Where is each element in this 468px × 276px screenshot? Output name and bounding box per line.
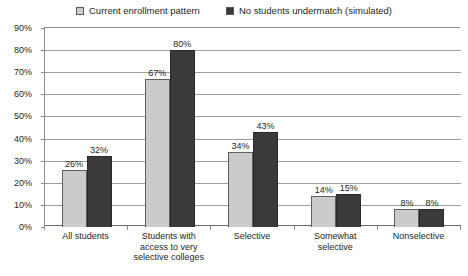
bar[interactable]: 80% bbox=[170, 50, 195, 227]
bar-value-label: 43% bbox=[256, 122, 274, 131]
bar-group: 67%80% bbox=[128, 28, 211, 227]
y-axis-tick-label: 40% bbox=[0, 135, 32, 144]
bar-value-label: 80% bbox=[173, 40, 191, 49]
bar-group: 26%32% bbox=[45, 28, 128, 227]
x-axis-category-label: Students withaccess to veryselective col… bbox=[127, 231, 210, 263]
x-axis-tick-mark bbox=[377, 226, 378, 230]
bar-value-label: 15% bbox=[340, 184, 358, 193]
y-axis-tick-label: 0% bbox=[0, 223, 32, 232]
bar-value-label: 14% bbox=[315, 186, 333, 195]
x-axis-labels: All studentsStudents withaccess to verys… bbox=[44, 231, 460, 263]
x-axis-tick-mark bbox=[44, 226, 45, 230]
bar-value-label: 32% bbox=[90, 146, 108, 155]
legend-swatch-light-icon bbox=[76, 7, 84, 15]
legend-item-current-enrollment: Current enrollment pattern bbox=[76, 6, 200, 16]
bar-chart: 90%80%70%60%50%40%30%20%10%0% 26%32%67%8… bbox=[0, 22, 468, 276]
bar-group: 34%43% bbox=[211, 28, 294, 227]
bar-value-label: 67% bbox=[148, 69, 166, 78]
y-axis-tick-label: 10% bbox=[0, 201, 32, 210]
bar-group: 8%8% bbox=[378, 28, 461, 227]
y-axis-tick-label: 50% bbox=[0, 112, 32, 121]
x-axis-ticks bbox=[44, 226, 460, 230]
x-axis-tick-mark bbox=[127, 226, 128, 230]
bar-value-label: 26% bbox=[65, 160, 83, 169]
legend-label-no-undermatch: No students undermatch (simulated) bbox=[239, 6, 392, 16]
bar-value-label: 8% bbox=[425, 199, 438, 208]
legend-label-current-enrollment: Current enrollment pattern bbox=[89, 6, 200, 16]
bar[interactable]: 15% bbox=[336, 194, 361, 227]
plot-inner: 90%80%70%60%50%40%30%20%10%0% 26%32%67%8… bbox=[45, 28, 460, 226]
legend-swatch-dark-icon bbox=[226, 7, 234, 15]
legend-item-no-undermatch: No students undermatch (simulated) bbox=[226, 6, 392, 16]
x-axis-tick-mark bbox=[460, 226, 461, 230]
y-axis-tick-label: 20% bbox=[0, 179, 32, 188]
bar[interactable]: 26% bbox=[62, 170, 87, 227]
bar-group: 14%15% bbox=[295, 28, 378, 227]
y-axis-tick-label: 70% bbox=[0, 68, 32, 77]
x-axis-category-label: All students bbox=[44, 231, 127, 263]
chart-legend: Current enrollment pattern No students u… bbox=[0, 0, 468, 22]
x-axis-category-label: Somewhatselective bbox=[294, 231, 377, 263]
y-axis-tick-label: 60% bbox=[0, 90, 32, 99]
x-axis-category-label: Nonselective bbox=[377, 231, 460, 263]
x-axis-tick-mark bbox=[294, 226, 295, 230]
bar-groups: 26%32%67%80%34%43%14%15%8%8% bbox=[45, 28, 461, 227]
bar[interactable]: 67% bbox=[145, 79, 170, 227]
y-axis-tick-label: 90% bbox=[0, 24, 32, 33]
bar[interactable]: 43% bbox=[253, 132, 278, 227]
bar-value-label: 8% bbox=[400, 199, 413, 208]
x-axis-category-label: Selective bbox=[210, 231, 293, 263]
bar[interactable]: 8% bbox=[419, 209, 444, 227]
bar[interactable]: 32% bbox=[87, 156, 112, 227]
y-axis-tick-label: 30% bbox=[0, 157, 32, 166]
bar[interactable]: 8% bbox=[394, 209, 419, 227]
x-axis-tick-mark bbox=[210, 226, 211, 230]
y-axis-tick-label: 80% bbox=[0, 46, 32, 55]
plot-area: 90%80%70%60%50%40%30%20%10%0% 26%32%67%8… bbox=[44, 27, 460, 226]
bar-value-label: 34% bbox=[231, 142, 249, 151]
bar[interactable]: 14% bbox=[311, 196, 336, 227]
bar[interactable]: 34% bbox=[228, 152, 253, 227]
